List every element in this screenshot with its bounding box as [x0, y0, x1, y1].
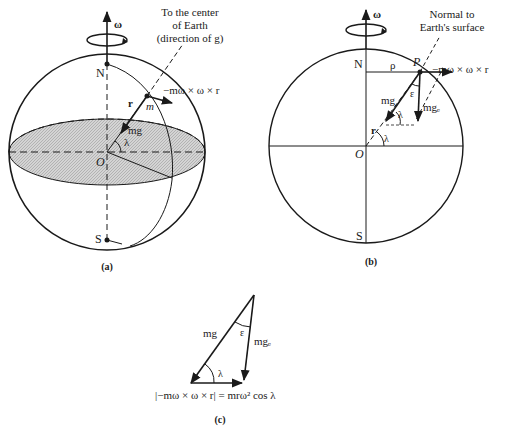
caption-a: (a): [101, 261, 113, 273]
m-label: m: [146, 100, 154, 112]
epsilon-label-b: ε: [410, 88, 414, 99]
north-label-b: N: [354, 57, 363, 71]
north-label: N: [96, 66, 105, 80]
rho-label: ρ: [390, 59, 396, 71]
centrifugal-label-b: −mω × ω × r: [432, 63, 489, 75]
omega-label-b: ω: [373, 8, 381, 20]
r-label: r: [128, 97, 133, 109]
lambda-label-c: λ: [218, 368, 223, 379]
south-label: S: [95, 232, 102, 246]
panel-b: ω N S O ρ P −mω × ω × r Normal to Earth'…: [269, 8, 489, 268]
caption-c: (c): [214, 414, 225, 426]
mg-label-b: mg: [381, 94, 396, 106]
south-label-b: S: [356, 229, 363, 243]
lambda-center-label: λ: [384, 133, 389, 144]
panel-a: ω N S O λ r m mg −mω × ω × r To the cent…: [9, 6, 224, 273]
mge-label-b: mgₑ: [423, 101, 440, 113]
note-line-2: of Earth: [172, 19, 208, 31]
normal-note-2: Earth's surface: [420, 21, 485, 33]
r-label-b: r: [371, 124, 376, 136]
omega-label: ω: [114, 18, 122, 30]
lambda-inner-label: λ: [398, 109, 403, 120]
epsilon-label-c: ε: [240, 327, 244, 338]
earth-rotation-figure: ω N S O λ r m mg −mω × ω × r To the cent…: [0, 0, 520, 432]
note-line-3: (direction of g): [157, 32, 224, 45]
mg-label-c: mg: [203, 327, 218, 339]
mge-arrow-b: [418, 72, 420, 121]
origin-label-b: O: [355, 147, 364, 161]
magnitude-equation: |−mω × ω × r| = mrω² cos λ: [155, 389, 276, 401]
panel-c: mg mgₑ ε λ |−mω × ω × r| = mrω² cos λ (c…: [155, 295, 276, 426]
note-line-1: To the center: [161, 6, 219, 18]
mge-label-c: mgₑ: [254, 335, 271, 347]
normal-note-1: Normal to: [430, 8, 475, 20]
centrifugal-label: −mω × ω × r: [163, 84, 220, 96]
caption-b: (b): [365, 256, 377, 268]
point-p-label: P: [412, 55, 421, 69]
lambda-label: λ: [124, 136, 130, 148]
origin-label: O: [96, 155, 105, 169]
mg-label: mg: [128, 124, 143, 136]
